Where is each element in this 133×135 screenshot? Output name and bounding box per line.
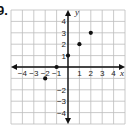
x-tick-label: 1 (77, 69, 82, 78)
data-point (66, 54, 70, 58)
coordinate-plane: −4−3−2−11234−4−3−21234xy (0, 0, 133, 135)
y-tick-label: 1 (62, 52, 67, 61)
arrow-left-icon (11, 64, 17, 70)
data-point (43, 76, 47, 80)
y-axis-label: y (74, 7, 79, 17)
x-axis-label: x (119, 68, 124, 78)
axes (11, 10, 125, 124)
y-tick-label: −4 (57, 109, 67, 118)
y-tick-label: −3 (57, 97, 67, 106)
x-tick-label: −1 (52, 69, 62, 78)
arrow-down-icon (65, 118, 71, 124)
x-tick-label: 2 (89, 69, 94, 78)
y-tick-label: 3 (62, 29, 67, 38)
data-point (77, 42, 81, 46)
y-tick-label: 4 (62, 17, 67, 26)
x-tick-label: 4 (111, 69, 116, 78)
y-tick-label: −2 (57, 86, 67, 95)
x-tick-label: −4 (18, 69, 28, 78)
arrow-up-icon (65, 10, 71, 16)
data-point (89, 31, 93, 35)
x-tick-label: −3 (29, 69, 39, 78)
data-point (55, 65, 59, 69)
x-tick-label: 3 (100, 69, 105, 78)
y-tick-label: 2 (62, 40, 67, 49)
